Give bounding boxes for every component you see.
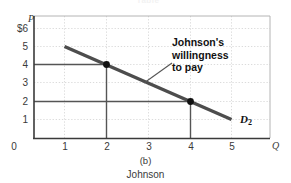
y-tick-label-4: 4: [2, 59, 28, 70]
caption-panel: (b): [140, 155, 152, 166]
chart-figure: Table: [0, 0, 291, 183]
x-axis-title: Q: [272, 140, 279, 151]
data-point-4-2: [187, 98, 194, 105]
gridlines-horizontal: [34, 29, 270, 120]
y-tick-label-5: 5: [2, 41, 28, 52]
x-tick-label-4: 4: [181, 141, 201, 152]
x-tick-label-2: 2: [97, 141, 117, 152]
annotation-line-1: Johnson's: [172, 36, 229, 49]
series-label-subscript: 2: [248, 118, 252, 127]
data-point-2-4: [103, 61, 110, 68]
gridlines-vertical: [65, 16, 232, 138]
y-tick-label-3: 3: [2, 77, 28, 88]
x-tick-label-3: 3: [139, 141, 159, 152]
annotation-willingness-to-pay: Johnson's willingness to pay: [172, 36, 229, 74]
x-tick-label-5: 5: [222, 141, 242, 152]
reference-lines: [34, 65, 191, 139]
series-label-d2: D2: [240, 113, 252, 127]
y-tick-label-6: $6: [2, 23, 28, 34]
y-tick-label-1: 1: [2, 114, 28, 125]
x-tick-label-1: 1: [55, 141, 75, 152]
annotation-line-3: to pay: [172, 61, 229, 74]
x-tick-label-0: 0: [4, 141, 24, 152]
y-tick-label-2: 2: [2, 96, 28, 107]
caption-name: Johnson: [0, 168, 291, 181]
series-label-letter: D: [240, 113, 248, 125]
y-axis-title: P: [28, 13, 34, 24]
annotation-line-2: willingness: [172, 49, 229, 62]
figure-caption: (b) Johnson: [0, 154, 291, 181]
